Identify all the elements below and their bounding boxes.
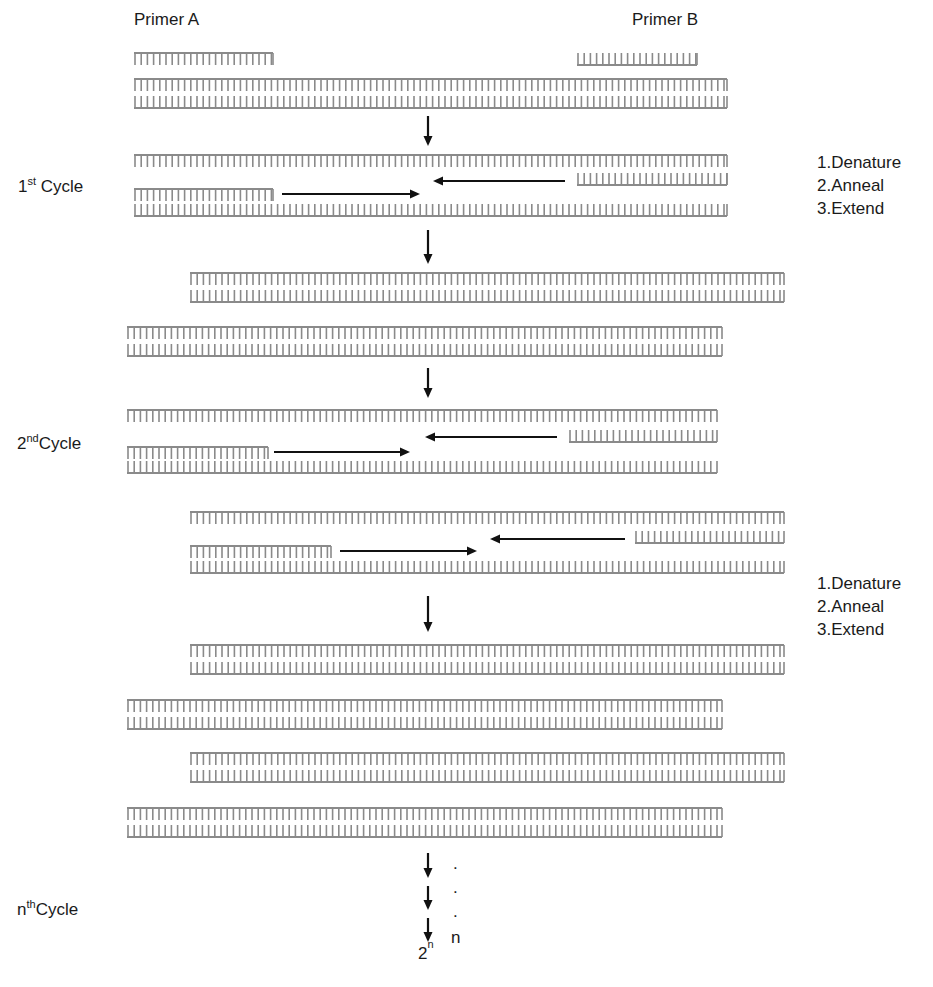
step-anneal: 2.Anneal (817, 174, 901, 197)
dot-1: . (453, 854, 458, 874)
steps-list-2: 1.Denature 2.Anneal 3.Extend (817, 572, 901, 641)
step-denature: 1.Denature (817, 572, 901, 595)
n-label: n (451, 928, 460, 948)
step-extend: 3.Extend (817, 197, 901, 220)
primer-a-label: Primer A (134, 10, 199, 30)
step-anneal: 2.Anneal (817, 595, 901, 618)
pcr-diagram (0, 0, 933, 987)
dot-3: . (453, 902, 458, 922)
cycle-n-label: nthCycle (17, 898, 78, 920)
result-2n: 2n (418, 942, 434, 964)
steps-list-1: 1.Denature 2.Anneal 3.Extend (817, 151, 901, 220)
step-denature: 1.Denature (817, 151, 901, 174)
step-extend: 3.Extend (817, 618, 901, 641)
cycle-2-label: 2ndCycle (17, 432, 81, 454)
dot-2: . (453, 878, 458, 898)
cycle-1-label: 1st Cycle (18, 175, 83, 197)
primer-b-label: Primer B (632, 10, 698, 30)
